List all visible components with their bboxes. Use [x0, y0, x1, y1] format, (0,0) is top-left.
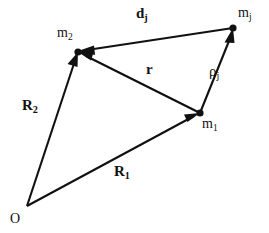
label-m1-sub: 1 [213, 123, 218, 133]
vector-d-j-line [87, 28, 233, 50]
label-vector-R2: R2 [22, 98, 38, 115]
label-R1-base: R [114, 163, 125, 179]
label-vector-R1: R1 [114, 164, 130, 181]
label-R2-sub: 2 [33, 104, 38, 115]
label-R1-sub: 1 [125, 170, 130, 181]
label-point-m1: m1 [202, 117, 218, 133]
label-rhoj-sub: j [217, 70, 220, 81]
label-vector-r: r [146, 62, 153, 79]
vector-r [78, 51, 200, 113]
label-R2-base: R [22, 97, 33, 113]
node-dot-mj [229, 24, 236, 31]
vector-d-j [78, 28, 233, 55]
label-m2-sub: 2 [68, 32, 73, 42]
label-vector-rho-j: ρj [209, 64, 219, 81]
label-point-mj: mj [238, 6, 252, 22]
label-rhoj-base: ρ [209, 63, 217, 79]
label-point-m2: m2 [57, 26, 73, 42]
label-vector-dj: dj [136, 6, 148, 23]
node-dot-m2 [74, 48, 81, 55]
label-m2-base: m [57, 25, 68, 40]
label-O-base: O [10, 211, 20, 226]
label-r-base: r [146, 61, 153, 77]
vector-r-line [86, 56, 200, 113]
diagram-canvas [0, 0, 269, 233]
label-dj-sub: j [144, 12, 147, 23]
label-point-origin: O [10, 212, 20, 228]
label-mj-sub: j [249, 12, 252, 22]
label-mj-base: m [238, 5, 249, 20]
vector-diagram-figure: dj mj m2 r ρj m1 R2 R1 O [0, 0, 269, 233]
label-m1-base: m [202, 116, 213, 131]
